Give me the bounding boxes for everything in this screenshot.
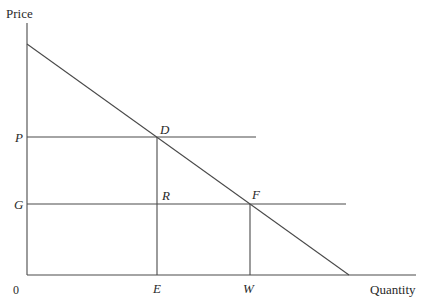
y-axis-label: Price	[6, 6, 33, 21]
economics-diagram: Price Quantity 0 P G E W D R F	[0, 0, 424, 300]
point-label-f: F	[251, 187, 261, 202]
quantity-label-w: W	[243, 281, 255, 296]
point-label-d: D	[159, 122, 170, 137]
demand-line	[27, 44, 349, 275]
point-label-r: R	[161, 188, 170, 203]
x-axis-label: Quantity	[370, 282, 416, 297]
price-label-g: G	[14, 197, 24, 212]
origin-label: 0	[13, 283, 19, 297]
quantity-label-e: E	[152, 281, 161, 296]
price-label-p: P	[14, 130, 23, 145]
